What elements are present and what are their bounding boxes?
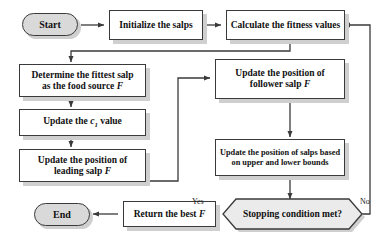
- node-initialize-salps[interactable]: Initialize the salps: [109, 10, 203, 40]
- follower-salp-text: follower salp: [250, 79, 304, 89]
- node-update-leading-salp-line2: leading salp F: [54, 166, 111, 177]
- node-return-best-label: Return the best F: [134, 209, 206, 220]
- node-stopping-condition[interactable]: Stopping condition met?: [222, 198, 363, 230]
- leading-salp-var: F: [105, 166, 111, 176]
- no-label-text: No: [360, 197, 370, 206]
- node-update-follower-salp[interactable]: Update the position of follower salp F: [215, 59, 345, 99]
- node-start[interactable]: Start: [22, 13, 78, 36]
- node-update-leading-salp-line1: Update the position of: [38, 155, 127, 166]
- node-stopping-condition-label: Stopping condition met?: [243, 209, 342, 219]
- edge-label-no: No: [360, 197, 370, 206]
- leading-salp-text: leading salp: [54, 166, 105, 176]
- flowchart-canvas: Return best F --> right -> up -> Calcula…: [0, 0, 380, 242]
- node-end[interactable]: End: [34, 203, 90, 226]
- return-best-var: F: [199, 209, 205, 219]
- edge-label-yes: Yes: [192, 197, 204, 206]
- node-update-follower-salp-line1: Update the position of: [235, 68, 324, 79]
- node-update-bounds[interactable]: Update the position of salps based on up…: [215, 139, 345, 176]
- node-update-leading-salp[interactable]: Update the position of leading salp F: [19, 149, 146, 182]
- node-calculate-fitness[interactable]: Calculate the fitness values: [226, 10, 345, 40]
- node-determine-fittest-salp-line1: Determine the fittest salp: [31, 70, 133, 81]
- edge-stopping-no-to-calculate: [344, 25, 370, 214]
- node-update-c1-label: Update the c1 value: [43, 116, 122, 129]
- node-update-c1[interactable]: Update the c1 value: [19, 109, 146, 136]
- node-update-bounds-line2: on upper and lower bounds: [232, 158, 329, 168]
- node-calculate-fitness-label: Calculate the fitness values: [231, 20, 341, 31]
- node-end-label: End: [53, 209, 71, 221]
- node-update-follower-salp-line2: follower salp F: [250, 79, 311, 90]
- follower-salp-var: F: [304, 79, 310, 89]
- node-determine-fittest-salp-line2: as the food source F: [42, 81, 123, 92]
- edge-leading-to-follower: [146, 78, 210, 181]
- yes-label-text: Yes: [192, 197, 204, 206]
- node-update-bounds-line1: Update the position of salps based: [220, 148, 340, 158]
- update-c1-suffix: value: [98, 116, 122, 126]
- determine-food-source-var: F: [117, 81, 123, 91]
- node-start-label: Start: [39, 19, 61, 31]
- node-determine-fittest-salp[interactable]: Determine the fittest salp as the food s…: [19, 64, 146, 97]
- return-best-text: Return the best: [134, 209, 199, 219]
- determine-line2-text: as the food source: [42, 81, 117, 91]
- node-initialize-salps-label: Initialize the salps: [119, 20, 192, 31]
- update-c1-prefix: Update the: [43, 116, 90, 126]
